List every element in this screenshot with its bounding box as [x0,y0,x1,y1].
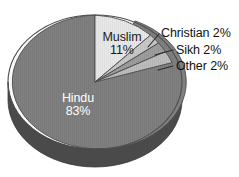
slice-label-muslim-value: 11% [92,44,152,57]
slice-label-sikh: Sikh 2% [176,44,221,57]
slice-label-hindu-name: Hindu [62,91,94,105]
slice-label-muslim: Muslim 11% [92,31,152,57]
slice-label-muslim-name: Muslim [103,30,142,44]
slice-label-other: Other 2% [176,60,228,73]
slice-label-hindu-value: 83% [44,105,112,118]
pie-chart-religion-distribution: Muslim 11% Hindu 83% Christian 2% Sikh 2… [0,0,239,177]
slice-label-christian: Christian 2% [161,27,231,40]
slice-label-hindu: Hindu 83% [44,92,112,118]
